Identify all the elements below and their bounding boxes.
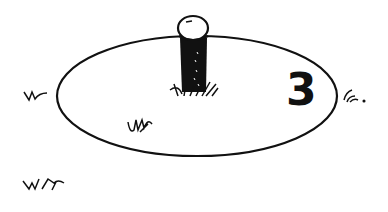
post xyxy=(178,16,208,92)
grass-tuft-left xyxy=(24,92,47,100)
number-label: 3 xyxy=(286,68,317,112)
grass-tuft-right xyxy=(344,90,365,102)
illustration xyxy=(0,0,388,212)
grass-tuft-inner xyxy=(128,120,152,132)
grass-tuft-bottom-left xyxy=(23,179,64,190)
